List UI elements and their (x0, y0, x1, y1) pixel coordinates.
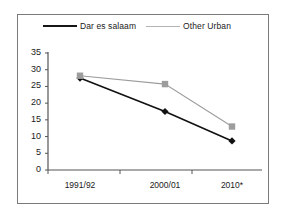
x-axis-tick-label: 1991/92 (50, 180, 110, 190)
chart-series-2 (77, 73, 235, 130)
data-point-marker (229, 123, 235, 129)
y-axis-tick-label: 10 (21, 131, 41, 141)
series-line (80, 78, 232, 141)
x-axis-tick-label: 2010* (202, 180, 262, 190)
chart-series-1 (76, 74, 235, 144)
y-axis-tick-label: 0 (21, 164, 41, 174)
chart-axes (48, 52, 262, 170)
y-axis-tick-label: 20 (21, 97, 41, 107)
y-axis-tick-label: 15 (21, 114, 41, 124)
data-point-marker (228, 137, 235, 144)
chart-plot-area: 35302520151050 1991/922000/012010* (0, 0, 283, 216)
y-axis-tick-label: 25 (21, 80, 41, 90)
data-point-marker (162, 81, 168, 87)
y-axis-tick-label: 35 (21, 47, 41, 57)
series-line (80, 76, 232, 127)
data-point-marker (161, 108, 168, 115)
x-axis-tick-label: 2000/01 (135, 180, 195, 190)
data-point-marker (77, 73, 83, 79)
y-axis-tick-label: 5 (21, 147, 41, 157)
y-axis-tick-label: 30 (21, 64, 41, 74)
chart-figure: Dar es salaam Other Urban 35302520151050… (0, 0, 283, 216)
x-axis-ticks (48, 170, 192, 174)
